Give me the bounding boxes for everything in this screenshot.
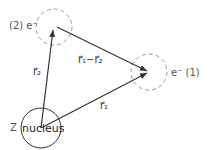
r1-vector <box>41 73 147 128</box>
electron-1-label: e⁻ (1) <box>171 68 200 78</box>
r2-label: r⃗₂ <box>33 67 41 77</box>
charge-label: Z <box>10 123 17 133</box>
electron-2-label: (2) e⁻ <box>9 21 38 31</box>
r1-label: r⃗₁ <box>100 101 108 111</box>
r1-minus-r2-label: r⃗₁−r⃗₂ <box>78 55 103 65</box>
electron-1-circle <box>131 54 167 90</box>
nucleus-label: nucleus <box>22 123 65 134</box>
electron-2-circle <box>36 9 72 45</box>
